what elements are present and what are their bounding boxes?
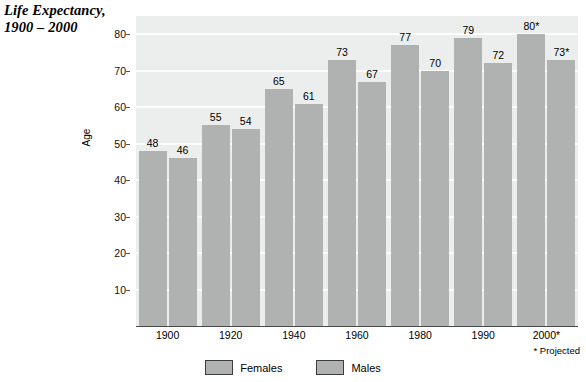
bar-value-label: 46: [163, 144, 203, 156]
y-axis-title: Age: [81, 114, 92, 162]
y-tick-label-30: 30: [114, 211, 126, 223]
bar-males-1920: [232, 129, 260, 326]
y-tick-label-80: 80: [114, 28, 126, 40]
bar-value-label: 61: [289, 90, 329, 102]
bar-value-label: 54: [226, 115, 266, 127]
bar-value-label: 67: [352, 68, 392, 80]
y-tick-label-10: 10: [114, 284, 126, 296]
x-axis-ticks: 1900192019401960198019902000*: [136, 329, 578, 345]
bar-value-label: 70: [415, 57, 455, 69]
bar-females-1920: [202, 125, 230, 326]
x-tick-label-1940: 1940: [282, 329, 305, 341]
bar-value-label: 65: [259, 75, 299, 87]
legend-item-males: Males: [316, 360, 380, 375]
x-tick-label-1920: 1920: [219, 329, 242, 341]
bar-males-1960: [358, 82, 386, 326]
y-tick-label-50: 50: [114, 138, 126, 150]
bar-males-1980: [421, 71, 449, 326]
y-tick-label-70: 70: [114, 65, 126, 77]
y-tick-mark-80: [126, 34, 130, 35]
x-tick-label-1980: 1980: [408, 329, 431, 341]
legend-label: Females: [240, 362, 282, 374]
y-tick-mark-40: [126, 180, 130, 181]
y-tick-mark-10: [126, 290, 130, 291]
bar-males-2000: [547, 60, 575, 326]
bar-females-2000: [517, 34, 545, 326]
bar-value-label: 73: [322, 46, 362, 58]
y-tick-mark-20: [126, 253, 130, 254]
gridline-80: [136, 33, 578, 35]
legend-swatch-icon: [316, 360, 344, 375]
x-tick-label-1960: 1960: [345, 329, 368, 341]
bar-value-label: 72: [478, 49, 518, 61]
legend-swatch-icon: [205, 360, 233, 375]
y-tick-mark-30: [126, 217, 130, 218]
y-axis-ticks: 1020304050607080: [100, 16, 130, 326]
x-axis-line: [136, 326, 578, 327]
bar-females-1940: [265, 89, 293, 326]
bar-males-1990: [484, 63, 512, 326]
bar-males-1900: [169, 158, 197, 326]
plot-area: 48465554656173677770797280*73*: [136, 16, 578, 326]
legend-label: Males: [351, 362, 380, 374]
y-tick-label-60: 60: [114, 101, 126, 113]
bar-females-1990: [454, 38, 482, 326]
bar-value-label: 80*: [511, 20, 551, 32]
y-tick-label-20: 20: [114, 247, 126, 259]
bar-females-1980: [391, 45, 419, 326]
bar-males-1940: [295, 104, 323, 326]
bar-females-1960: [328, 60, 356, 326]
x-tick-label-1900: 1900: [156, 329, 179, 341]
bar-value-label: 79: [448, 24, 488, 36]
y-tick-mark-70: [126, 71, 130, 72]
x-tick-label-1990: 1990: [472, 329, 495, 341]
bar-value-label: 77: [385, 31, 425, 43]
y-tick-mark-50: [126, 144, 130, 145]
footnote: * Projected: [534, 345, 580, 356]
y-tick-mark-60: [126, 107, 130, 108]
bar-value-label: 73*: [541, 46, 581, 58]
y-tick-label-40: 40: [114, 174, 126, 186]
legend: FemalesMales: [0, 360, 586, 375]
x-tick-label-2000: 2000*: [533, 329, 560, 341]
legend-item-females: Females: [205, 360, 282, 375]
bar-females-1900: [139, 151, 167, 326]
